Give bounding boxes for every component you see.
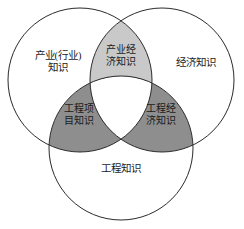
venn-diagram: 产业(行业) 知识 经济知识 工程知识 产业经 济知识 工程项 目知识 工程经 … bbox=[0, 0, 244, 229]
venn-svg bbox=[0, 0, 244, 229]
